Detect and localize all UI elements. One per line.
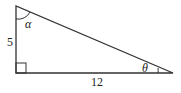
side-label-vertical: 5: [7, 35, 13, 49]
side-label-horizontal: 12: [91, 75, 103, 89]
triangle: [16, 6, 173, 73]
triangle-diagram: 5 α 12 θ: [0, 0, 181, 93]
right-angle-marker: [16, 63, 26, 73]
angle-label-alpha: α: [25, 17, 32, 31]
angle-label-theta: θ: [142, 61, 148, 75]
